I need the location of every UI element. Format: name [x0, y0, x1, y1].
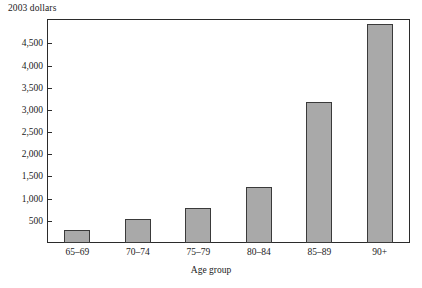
y-axis-tick-label: 500: [29, 216, 43, 226]
y-axis-tick-mark: [47, 176, 52, 177]
y-axis-unit-label: 2003 dollars: [8, 3, 56, 13]
y-axis-tick-label: 3,000: [22, 105, 43, 115]
x-axis-category-label: 80–84: [247, 247, 271, 257]
y-axis-tick-label: 4,000: [22, 61, 43, 71]
x-axis-category-label: 70–74: [126, 247, 150, 257]
y-axis-tick-mark: [47, 66, 52, 67]
x-axis-category-label: 75–79: [186, 247, 210, 257]
bar-chart-figure: 2003 dollars 5001,0001,5002,0002,5003,00…: [0, 0, 422, 288]
y-axis-tick-label: 1,000: [22, 194, 43, 204]
y-axis-tick-mark: [47, 221, 52, 222]
x-axis-category-label: 65–69: [65, 247, 89, 257]
y-axis-tick-mark: [47, 199, 52, 200]
y-axis-tick-label: 4,500: [22, 38, 43, 48]
x-axis-category-label: 85–89: [307, 247, 331, 257]
plot-area: 5001,0001,5002,0002,5003,0003,5004,0004,…: [47, 19, 410, 243]
x-axis-title: Age group: [0, 265, 422, 275]
y-axis-tick-mark: [47, 154, 52, 155]
y-axis-tick-label: 3,500: [22, 83, 43, 93]
bar: [185, 208, 211, 243]
y-axis-tick-label: 1,500: [22, 171, 43, 181]
bar: [64, 230, 90, 243]
y-axis-tick-label: 2,000: [22, 149, 43, 159]
bar: [367, 24, 393, 243]
bar: [306, 102, 332, 243]
y-axis-tick-mark: [47, 110, 52, 111]
y-axis-tick-mark: [47, 43, 52, 44]
y-axis-tick-mark: [47, 88, 52, 89]
bar: [125, 219, 151, 243]
x-axis-category-label: 90+: [372, 247, 387, 257]
bar: [246, 187, 272, 243]
y-axis-tick-label: 2,500: [22, 127, 43, 137]
y-axis-tick-mark: [47, 132, 52, 133]
